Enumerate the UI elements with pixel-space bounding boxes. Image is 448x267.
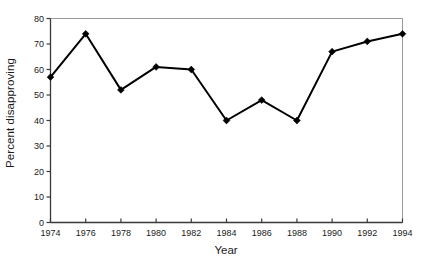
- y-tick-label: 0: [20, 218, 44, 228]
- x-tick-label: 1986: [252, 228, 272, 238]
- x-tick-label: 1994: [392, 228, 412, 238]
- y-tick-label: 70: [20, 39, 44, 49]
- y-tick-label: 40: [20, 116, 44, 126]
- y-tick-label: 10: [20, 192, 44, 202]
- x-tick-label: 1974: [40, 228, 60, 238]
- y-tick-label: 30: [20, 141, 44, 151]
- data-point-marker: [364, 38, 371, 45]
- data-point-marker: [399, 30, 406, 37]
- x-tick-label: 1984: [216, 228, 236, 238]
- y-tick-label: 50: [20, 90, 44, 100]
- data-line: [51, 34, 403, 121]
- x-tick-label: 1990: [322, 228, 342, 238]
- x-tick-label: 1978: [111, 228, 131, 238]
- y-tick-label: 80: [20, 14, 44, 24]
- data-point-marker: [329, 48, 336, 55]
- x-tick-label: 1976: [76, 228, 96, 238]
- x-tick-label: 1980: [146, 228, 166, 238]
- x-tick-label: 1988: [287, 228, 307, 238]
- chart-container: Percent disapproving Year 01020304050607…: [0, 0, 448, 267]
- x-tick-label: 1982: [181, 228, 201, 238]
- y-tick-label: 60: [20, 65, 44, 75]
- y-tick-label: 20: [20, 167, 44, 177]
- x-tick-label: 1992: [357, 228, 377, 238]
